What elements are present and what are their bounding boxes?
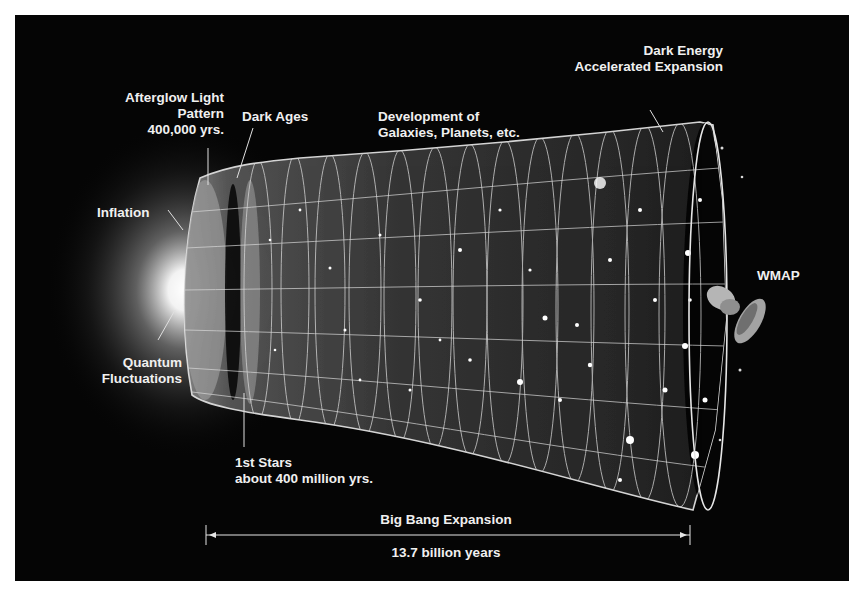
diagram-frame: Afterglow Light Pattern 400,000 yrs. Dar… bbox=[15, 15, 849, 581]
development-line2: Galaxies, Planets, etc. bbox=[378, 125, 520, 141]
quantum-line1: Quantum bbox=[77, 355, 182, 371]
dark-energy-label: Dark Energy Accelerated Expansion bbox=[555, 43, 723, 75]
first-stars-line1: 1st Stars bbox=[235, 455, 373, 471]
first-stars-label: 1st Stars about 400 million yrs. bbox=[235, 455, 373, 487]
development-line1: Development of bbox=[378, 109, 520, 125]
duration-label: 13.7 billion years bbox=[295, 545, 597, 561]
wmap-label: WMAP bbox=[757, 268, 800, 284]
afterglow-line1: Afterglow Light bbox=[87, 90, 224, 106]
afterglow-line3: 400,000 yrs. bbox=[87, 122, 224, 138]
expansion-label: Big Bang Expansion bbox=[295, 512, 597, 528]
inflation-label: Inflation bbox=[97, 205, 150, 221]
dark-energy-line2: Accelerated Expansion bbox=[555, 59, 723, 75]
first-stars-line2: about 400 million yrs. bbox=[235, 471, 373, 487]
quantum-fluctuations-label: Quantum Fluctuations bbox=[77, 355, 182, 387]
development-label: Development of Galaxies, Planets, etc. bbox=[378, 109, 520, 141]
dark-ages-label: Dark Ages bbox=[242, 109, 308, 125]
expansion-arrow bbox=[206, 525, 690, 545]
afterglow-line2: Pattern bbox=[87, 106, 224, 122]
afterglow-label: Afterglow Light Pattern 400,000 yrs. bbox=[87, 90, 224, 138]
quantum-line2: Fluctuations bbox=[77, 371, 182, 387]
dark-energy-line1: Dark Energy bbox=[555, 43, 723, 59]
